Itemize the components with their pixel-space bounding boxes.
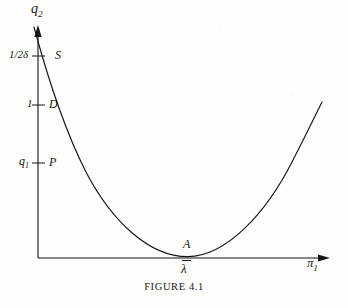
- x-axis-label-subscript: 1: [314, 263, 318, 273]
- y-tick-label-q1-subscript: 1: [25, 161, 29, 170]
- point-label-s: S: [55, 49, 61, 61]
- lambda-glyph: λ: [181, 261, 187, 276]
- figure-caption: FIGURE 4.1: [0, 281, 348, 292]
- figure-graphic: [0, 0, 348, 308]
- convex-curve: [34, 27, 322, 257]
- y-axis-label-subscript: 2: [38, 9, 43, 19]
- y-axis-label: q2: [31, 2, 43, 19]
- y-tick-label-q1: q1: [19, 155, 29, 170]
- y-tick-label-one: 1: [27, 98, 33, 109]
- y-tick-label-half-delta: 1/2δ: [9, 49, 28, 60]
- figure-page: q2 π1 1/2δ 1 q1 S D P A λ FIGURE 4.1: [0, 0, 348, 308]
- x-tick-label-lambda-bar: λ: [181, 260, 191, 275]
- y-axis-label-text: q: [31, 1, 38, 16]
- point-label-d: D: [49, 98, 58, 110]
- point-label-p: P: [49, 156, 56, 168]
- y-axis: [34, 25, 41, 258]
- point-label-a: A: [183, 238, 190, 250]
- x-axis-label: π1: [307, 256, 318, 272]
